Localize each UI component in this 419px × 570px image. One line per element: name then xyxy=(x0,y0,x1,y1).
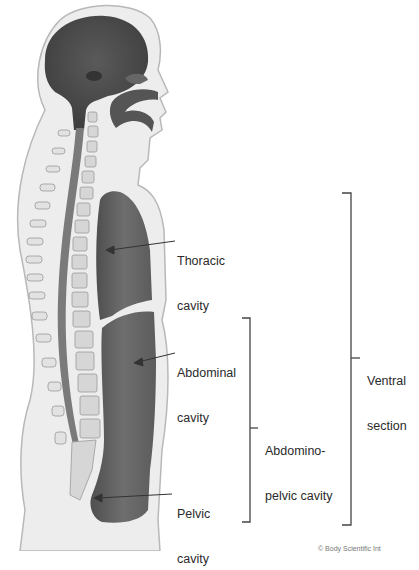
abdominopelvic-bracket xyxy=(242,318,258,522)
label-ventral-section: Ventral section xyxy=(367,344,407,449)
ventral-bracket xyxy=(342,193,360,525)
label-pelvic-cavity: Pelvic cavity xyxy=(177,477,210,570)
brainstem-nodule xyxy=(86,71,102,81)
label-abdominopelvic-cavity: Abdomino- pelvic cavity xyxy=(265,414,332,519)
label-abdominal-cavity: Abdominal cavity xyxy=(177,336,236,441)
label-thoracic-cavity: Thoracic cavity xyxy=(177,224,225,329)
copyright-credit: © Body Scientific Int xyxy=(318,545,381,552)
